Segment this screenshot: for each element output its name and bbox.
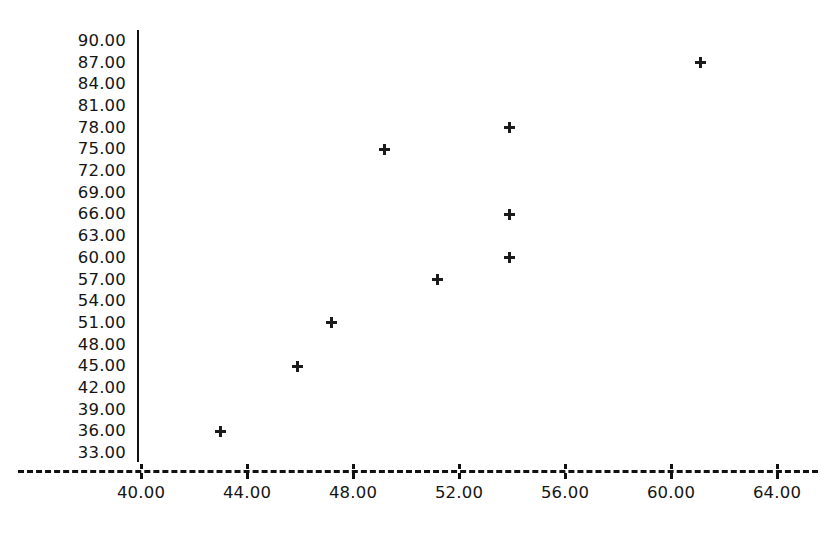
data-point	[695, 57, 706, 68]
data-point	[326, 317, 337, 328]
data-point	[432, 274, 443, 285]
data-point	[504, 122, 515, 133]
data-point	[292, 361, 303, 372]
data-point	[379, 144, 390, 155]
scatter-plot: 90.0087.0084.0081.0078.0075.0072.0069.00…	[0, 0, 836, 541]
data-point	[504, 209, 515, 220]
plot-area	[0, 0, 836, 541]
data-point	[215, 426, 226, 437]
data-point	[504, 252, 515, 263]
